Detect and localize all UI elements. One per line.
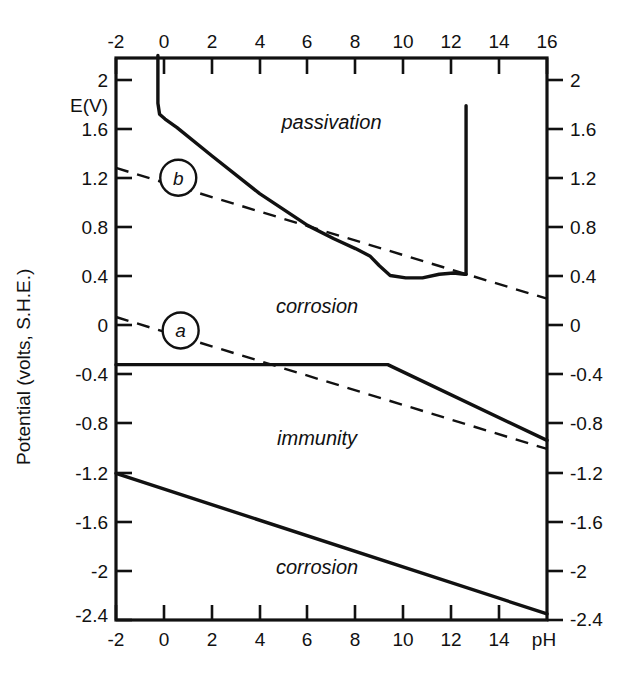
marker-b: b (160, 160, 196, 196)
x-tick-label-bottom: 10 (392, 629, 413, 650)
y-axis-inner-label-text: E(V) (70, 95, 108, 116)
marker-b-label: b (173, 168, 184, 189)
y-axis-ticks-left (116, 80, 132, 620)
y-tick-label-left: 2 (97, 70, 108, 91)
region-label-corrosion-upper: corrosion (276, 295, 358, 317)
x-tick-label-bottom: -2 (108, 629, 125, 650)
y-tick-label-right: -1.6 (570, 512, 603, 533)
y-tick-label-left: 1.2 (82, 168, 108, 189)
y-tick-label-right: 1.2 (570, 168, 596, 189)
x-axis-ticks-bottom (116, 605, 499, 620)
y-tick-label-left: -1.2 (75, 463, 108, 484)
x-tick-label-bottom: 8 (350, 629, 361, 650)
x-tick-label-top: 4 (255, 31, 266, 52)
region-label-corrosion-lower: corrosion (276, 556, 358, 578)
lower-corrosion-boundary-curve (116, 473, 547, 614)
y-axis-caption: Potential (volts, S.H.E.) (13, 269, 34, 465)
passivation-boundary-curve (158, 56, 466, 278)
x-tick-label-top: 6 (302, 31, 313, 52)
x-tick-label-bottom: 2 (207, 629, 218, 650)
line-markers: b a (160, 160, 198, 349)
y-axis-ticks-right (547, 80, 563, 620)
marker-a-label: a (175, 320, 186, 341)
y-tick-label-right: 0.8 (570, 217, 596, 238)
y-tick-label-left: 0.8 (82, 217, 108, 238)
marker-a: a (163, 312, 199, 348)
x-axis-title: pH (532, 629, 556, 650)
chart-canvas: Potential (volts, S.H.E.) -2 0 2 4 6 8 1… (0, 0, 618, 676)
y-axis-inner-label: E(V) (70, 95, 108, 116)
y-tick-label-left: 0.4 (82, 266, 109, 287)
y-tick-label-right: 0 (570, 315, 581, 336)
y-tick-label-right: 0.4 (570, 266, 597, 287)
y-tick-label-right: -2 (570, 561, 587, 582)
y-tick-label-left: -1.6 (75, 512, 108, 533)
y-tick-label-left: -0.8 (75, 413, 108, 434)
x-tick-label-bottom: 14 (488, 629, 510, 650)
x-tick-label-bottom: 4 (255, 629, 266, 650)
x-tick-label-bottom: 6 (302, 629, 313, 650)
x-axis-tick-labels-bottom: -2 0 2 4 6 8 10 12 14 pH (108, 629, 557, 650)
y-tick-label-left: -0.4 (75, 364, 108, 385)
y-axis-tick-labels-right: 2 1.6 1.2 0.8 0.4 0 -0.4 -0.8 -1.2 -1.6 … (570, 70, 603, 630)
y-tick-label-right: -0.4 (570, 364, 603, 385)
x-tick-label-top: 16 (536, 31, 557, 52)
y-tick-label-right: -1.2 (570, 463, 603, 484)
y-tick-label-right: 1.6 (570, 119, 596, 140)
y-axis-caption-text: Potential (volts, S.H.E.) (13, 269, 34, 465)
x-tick-label-bottom: 0 (159, 629, 170, 650)
y-tick-label-right: -0.8 (570, 413, 603, 434)
y-axis-tick-labels-left: 2 1.6 1.2 0.8 0.4 0 -0.4 -0.8 -1.2 -1.6 … (75, 70, 108, 626)
region-label-immunity: immunity (277, 427, 358, 449)
region-label-passivation: passivation (280, 111, 381, 133)
x-tick-label-top: 0 (159, 31, 170, 52)
pourbaix-diagram-figure: Potential (volts, S.H.E.) -2 0 2 4 6 8 1… (0, 0, 618, 676)
y-tick-label-left: 0 (97, 315, 108, 336)
x-tick-label-top: 12 (440, 31, 461, 52)
x-axis-ticks-top (116, 58, 547, 74)
x-tick-label-top: 2 (207, 31, 218, 52)
x-tick-label-top: -2 (108, 31, 125, 52)
x-tick-label-top: 8 (350, 31, 361, 52)
x-tick-label-top: 10 (392, 31, 413, 52)
y-tick-label-left: 1.6 (82, 119, 108, 140)
x-axis-tick-labels-top: -2 0 2 4 6 8 10 12 14 16 (108, 31, 558, 52)
y-tick-label-right: 2 (570, 70, 581, 91)
y-tick-label-right: -2.4 (570, 609, 603, 630)
y-tick-label-left: -2 (91, 561, 108, 582)
x-tick-label-bottom: 12 (440, 629, 461, 650)
x-tick-label-top: 14 (488, 31, 510, 52)
y-tick-label-left: -2.4 (75, 605, 108, 626)
region-labels: passivation corrosion immunity corrosion (276, 111, 382, 578)
